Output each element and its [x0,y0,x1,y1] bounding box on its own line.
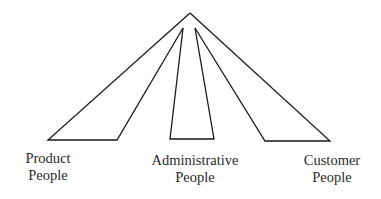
product-label-line2: People [10,167,86,184]
customer-label-line2: People [292,169,372,186]
customer-people-label: Customer People [292,152,372,186]
product-people-label: Product People [10,150,86,184]
administrative-people-label: Administrative People [140,152,250,186]
administrative-label-line1: Administrative [140,152,250,169]
administrative-label-line2: People [140,169,250,186]
product-label-line1: Product [10,150,86,167]
customer-label-line1: Customer [292,152,372,169]
administrative-people-wedge [170,28,214,139]
product-people-wedge [48,13,190,140]
